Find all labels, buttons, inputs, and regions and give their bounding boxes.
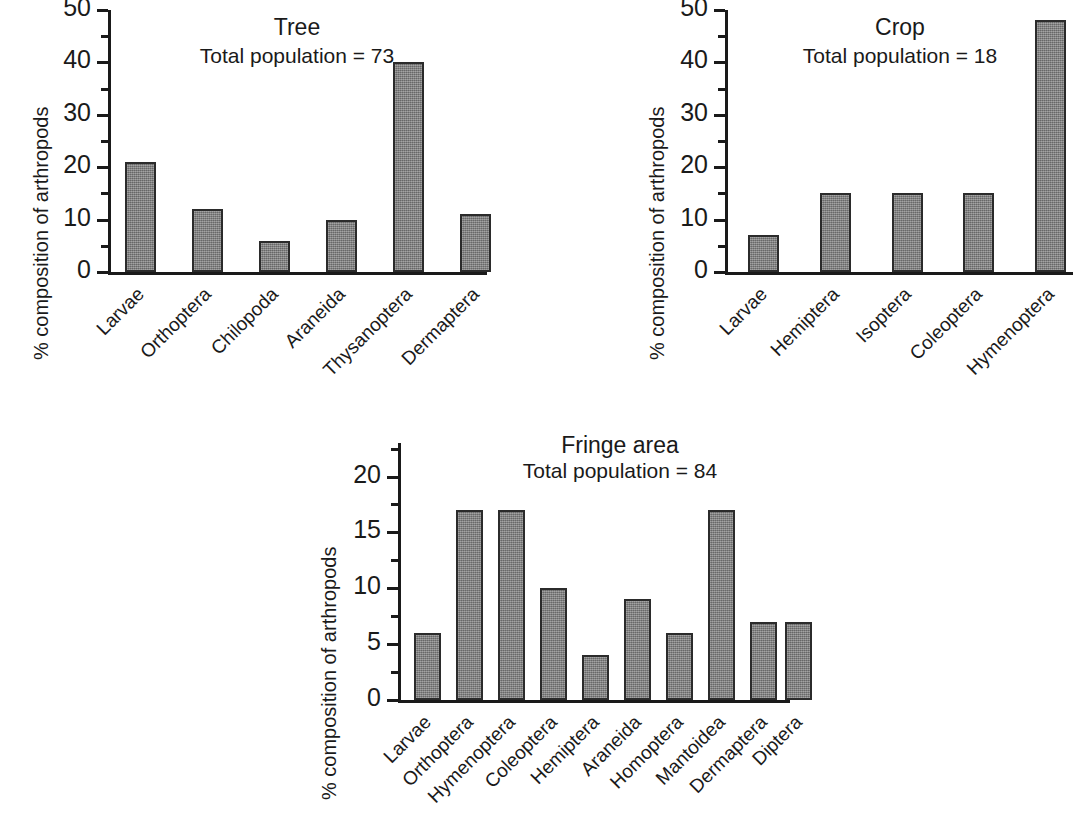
y-tick-minor <box>718 140 725 143</box>
y-tick-major <box>387 587 398 590</box>
y-tick-major <box>714 114 725 117</box>
y-tick-label: 20 <box>630 150 708 179</box>
bar <box>456 510 483 700</box>
bar <box>582 655 609 700</box>
y-tick-minor <box>101 192 108 195</box>
y-tick-major <box>97 166 108 169</box>
y-tick-label: 50 <box>13 0 91 22</box>
bar <box>540 588 567 700</box>
y-tick-minor <box>391 615 398 618</box>
y-tick-major <box>387 531 398 534</box>
chart-subtitle: Total population = 73 <box>67 44 527 68</box>
y-tick-label: 30 <box>13 98 91 127</box>
bar <box>785 622 812 700</box>
bar <box>708 510 735 700</box>
y-tick-major <box>97 114 108 117</box>
y-tick-label: 0 <box>630 255 708 284</box>
y-tick-major <box>387 699 398 702</box>
y-tick-label: 15 <box>303 515 381 544</box>
y-tick-major <box>97 219 108 222</box>
y-tick-major <box>714 166 725 169</box>
chart-title: Tree <box>97 14 497 41</box>
bar <box>125 162 156 272</box>
y-tick-label: 20 <box>303 460 381 489</box>
chart-subtitle: Total population = 84 <box>390 459 850 483</box>
y-tick-label: 20 <box>13 150 91 179</box>
bar <box>750 622 777 700</box>
y-tick-minor <box>391 448 398 451</box>
y-tick-major <box>714 9 725 12</box>
x-axis-line <box>725 272 1073 275</box>
y-tick-major <box>97 9 108 12</box>
y-tick-minor <box>101 88 108 91</box>
y-tick-minor <box>718 245 725 248</box>
y-tick-minor <box>391 559 398 562</box>
y-tick-minor <box>718 88 725 91</box>
y-tick-major <box>97 271 108 274</box>
y-tick-label: 10 <box>303 571 381 600</box>
y-tick-label: 10 <box>630 203 708 232</box>
bar <box>259 241 290 272</box>
bar <box>892 193 923 272</box>
y-tick-major <box>714 271 725 274</box>
y-tick-label: 0 <box>13 255 91 284</box>
y-tick-label: 50 <box>630 0 708 22</box>
bar <box>460 214 491 272</box>
chart-title: Fringe area <box>420 432 820 459</box>
bar <box>963 193 994 272</box>
y-tick-label: 10 <box>13 203 91 232</box>
y-tick-label: 5 <box>303 627 381 656</box>
bar <box>666 633 693 700</box>
y-tick-label: 0 <box>303 683 381 712</box>
chart-title: Crop <box>700 14 1073 41</box>
y-tick-minor <box>391 503 398 506</box>
x-axis-line <box>398 700 790 703</box>
y-tick-major <box>714 219 725 222</box>
y-axis-title: % composition of arthropods <box>646 107 669 360</box>
bar <box>192 209 223 272</box>
x-axis-line <box>108 272 487 275</box>
y-tick-minor <box>101 140 108 143</box>
chart-subtitle: Total population = 18 <box>670 44 1073 68</box>
y-tick-minor <box>101 245 108 248</box>
y-tick-minor <box>718 192 725 195</box>
bar <box>748 235 779 272</box>
y-tick-label: 30 <box>630 98 708 127</box>
y-axis-title: % composition of arthropods <box>30 107 53 360</box>
y-tick-major <box>387 643 398 646</box>
bar <box>624 599 651 700</box>
y-tick-minor <box>391 671 398 674</box>
bar <box>326 220 357 272</box>
bar <box>414 633 441 700</box>
bar <box>393 62 424 272</box>
bar <box>498 510 525 700</box>
bar <box>820 193 851 272</box>
